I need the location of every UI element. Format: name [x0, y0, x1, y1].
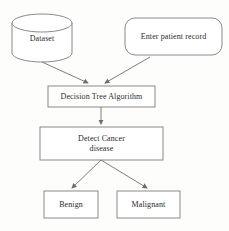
node-malignant[interactable]: [117, 191, 180, 218]
flowchart-shapes: [0, 0, 229, 231]
node-benign[interactable]: [44, 191, 98, 218]
flowchart-canvas: Dataset Enter patient record Decision Tr…: [0, 0, 229, 231]
arrow-detect-to-benign: [72, 160, 101, 188]
arrow-detect-to-malignant: [101, 160, 147, 188]
node-enter-patient-record[interactable]: [125, 18, 222, 55]
node-detect-cancer[interactable]: [40, 127, 163, 160]
node-dataset[interactable]: [12, 14, 72, 62]
arrow-dataset-to-algorithm: [42, 62, 88, 83]
node-decision-tree-algorithm[interactable]: [48, 86, 155, 107]
arrow-patient-record-to-algorithm: [105, 57, 150, 83]
